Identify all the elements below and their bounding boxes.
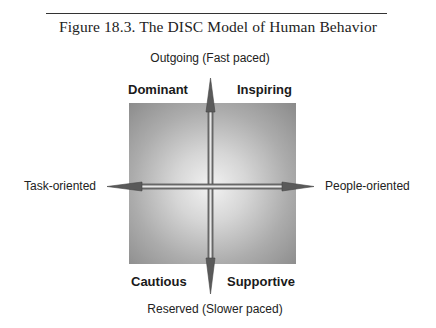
axis-label-left: Task-oriented xyxy=(24,179,96,193)
arrow-up-icon xyxy=(206,78,215,112)
arrow-right-icon xyxy=(282,182,314,191)
arrow-left-icon xyxy=(107,182,142,191)
axis-label-bottom: Reserved (Slower paced) xyxy=(140,302,290,316)
quadrant-label-supportive: Supportive xyxy=(227,274,295,289)
arrow-down-icon xyxy=(206,258,215,294)
axis-arrows xyxy=(0,0,436,328)
quadrant-label-cautious: Cautious xyxy=(131,274,187,289)
axis-label-right: People-oriented xyxy=(325,179,410,193)
